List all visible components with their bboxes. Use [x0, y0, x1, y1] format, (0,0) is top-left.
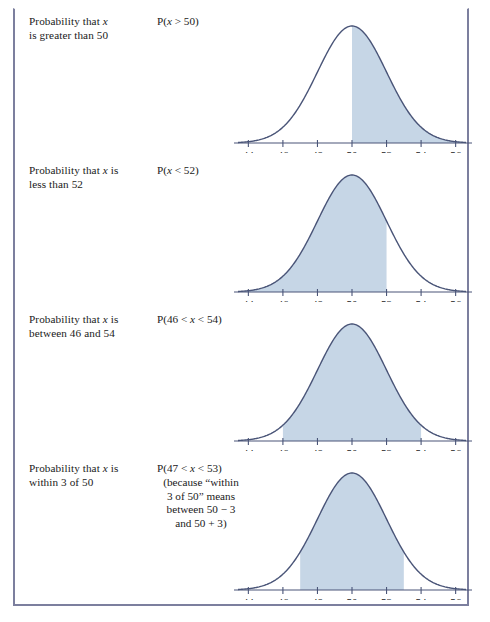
x-axis-tick-label: 56 — [450, 596, 462, 600]
shaded-probability-region — [238, 175, 387, 292]
shaded-probability-region — [352, 26, 466, 143]
x-axis-tick-label: 54 — [416, 596, 428, 600]
panel-description: Probability that x is within 3 of 50 — [29, 462, 149, 489]
x-axis-tick-label: 44 — [243, 596, 255, 600]
x-axis-tick-label: 48 — [312, 596, 324, 600]
x-axis-tick-label: 52 — [381, 596, 392, 600]
probability-panel: Probability that x is between 46 and 54 … — [0, 302, 490, 452]
normal-curve-chart: 44464850525456 — [228, 455, 478, 600]
probability-panel: Probability that x is less than 52 P(x <… — [0, 153, 490, 303]
shaded-probability-region — [300, 473, 404, 590]
probability-panel: Probability that x is within 3 of 50 P(4… — [0, 451, 490, 601]
shaded-probability-region — [283, 324, 421, 441]
panel-description: Probability that x is less than 52 — [29, 164, 149, 191]
panel-description-line1: Probability that x is — [29, 164, 118, 176]
panel-description-line2: less than 52 — [29, 178, 83, 190]
panel-description-line1: Probability that x is — [29, 462, 118, 474]
probability-panel: Probability that x is greater than 50 P(… — [0, 4, 490, 154]
panel-description-line1: Probability that x is — [29, 313, 118, 325]
panel-description: Probability that x is greater than 50 — [29, 15, 149, 42]
x-axis-tick-label: 50 — [347, 596, 359, 600]
panel-description: Probability that x is between 46 and 54 — [29, 313, 149, 340]
normal-curve-chart: 44464850525456 — [228, 306, 478, 451]
x-axis-tick-label: 46 — [277, 596, 289, 600]
normal-curve-chart: 44464850525456 — [228, 8, 478, 153]
panel-description-line2: between 46 and 54 — [29, 327, 115, 339]
panel-description-line1: Probability that x — [29, 15, 108, 27]
panel-description-line2: is greater than 50 — [29, 29, 108, 41]
normal-curve-chart: 44464850525456 — [228, 157, 478, 302]
panel-description-line2: within 3 of 50 — [29, 476, 93, 488]
